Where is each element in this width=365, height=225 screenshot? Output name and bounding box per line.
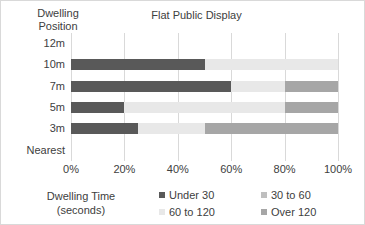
bar-segment xyxy=(205,59,339,70)
gridline xyxy=(338,33,339,161)
stacked-bar xyxy=(71,59,338,70)
x-axis-ticks: 0%20%40%60%80%100% xyxy=(71,163,338,179)
category-row: 5m xyxy=(71,97,338,118)
bar-segment xyxy=(285,102,338,113)
stacked-bar xyxy=(71,38,338,49)
chart-container: Dwelling Position Flat Public Display 12… xyxy=(0,0,365,225)
x-axis-title: Dwelling Time (seconds) xyxy=(11,189,151,217)
chart-legend: Under 3030 to 6060 to 120Over 120 xyxy=(159,186,359,220)
x-axis-title-line-2: (seconds) xyxy=(11,203,151,217)
x-axis-tick-label: 100% xyxy=(324,163,352,175)
legend-label: Over 120 xyxy=(271,206,316,218)
bar-segment xyxy=(138,123,205,134)
plot-area: 12m10m7m5m3mNearest xyxy=(71,33,338,161)
legend-label: Under 30 xyxy=(169,189,214,201)
legend-swatch-icon xyxy=(261,192,267,198)
x-axis-tick-label: 0% xyxy=(63,163,79,175)
bar-segment xyxy=(231,81,284,92)
y-axis-tick-label: 5m xyxy=(7,97,71,118)
category-row: 12m xyxy=(71,33,338,54)
category-row: 7m xyxy=(71,76,338,97)
category-row: 3m xyxy=(71,118,338,139)
bar-segment xyxy=(71,59,205,70)
chart-title: Flat Public Display xyxy=(1,9,365,22)
x-axis-tick-label: 20% xyxy=(113,163,135,175)
category-row: Nearest xyxy=(71,140,338,161)
legend-item[interactable]: Over 120 xyxy=(261,206,359,218)
stacked-bar xyxy=(71,123,338,134)
stacked-bar xyxy=(71,102,338,113)
x-axis-tick-label: 40% xyxy=(167,163,189,175)
x-axis-title-line-1: Dwelling Time xyxy=(11,189,151,203)
legend-item[interactable]: Under 30 xyxy=(159,189,261,201)
legend-label: 30 to 60 xyxy=(271,189,311,201)
category-row: 10m xyxy=(71,54,338,75)
x-axis-tick-label: 80% xyxy=(274,163,296,175)
legend-item[interactable]: 30 to 60 xyxy=(261,189,359,201)
bar-segment xyxy=(124,102,284,113)
stacked-bar xyxy=(71,81,338,92)
bar-segment xyxy=(71,102,124,113)
x-axis-tick-label: 60% xyxy=(220,163,242,175)
y-axis-tick-label: 10m xyxy=(7,54,71,75)
y-axis-tick-label: Nearest xyxy=(7,140,71,161)
y-axis-tick-label: 3m xyxy=(7,118,71,139)
legend-label: 60 to 120 xyxy=(169,206,215,218)
legend-swatch-icon xyxy=(261,209,267,215)
y-axis-tick-label: 12m xyxy=(7,33,71,54)
bar-segment xyxy=(285,81,338,92)
bar-segment xyxy=(71,123,138,134)
y-axis-tick-label: 7m xyxy=(7,76,71,97)
bar-segment xyxy=(205,123,339,134)
stacked-bar xyxy=(71,145,338,156)
legend-swatch-icon xyxy=(159,209,165,215)
bar-segment xyxy=(71,81,231,92)
legend-swatch-icon xyxy=(159,192,165,198)
legend-item[interactable]: 60 to 120 xyxy=(159,206,261,218)
chart-title-text: Flat Public Display xyxy=(151,9,241,21)
